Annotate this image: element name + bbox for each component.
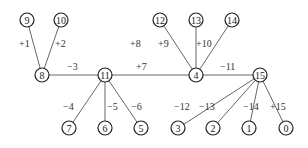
node-label: 14 [227, 15, 237, 26]
node-label: 1 [247, 123, 252, 134]
node-2: 2 [206, 121, 220, 135]
node-12: 12 [153, 13, 167, 27]
edge-label: −14 [243, 101, 259, 112]
node-label: 4 [194, 70, 199, 81]
node-label: 9 [25, 15, 30, 26]
edge-label: +15 [270, 101, 286, 112]
edge-label: +9 [158, 38, 169, 49]
node-label: 2 [211, 123, 216, 134]
node-label: 8 [40, 70, 45, 81]
node-0: 0 [279, 121, 293, 135]
nodes-layer: 9101213148114157653210 [20, 13, 293, 135]
node-label: 10 [56, 15, 66, 26]
node-1: 1 [242, 121, 256, 135]
node-label: 5 [139, 123, 144, 134]
node-11: 11 [98, 68, 112, 82]
node-label: 15 [255, 70, 265, 81]
node-9: 9 [20, 13, 34, 27]
tree-diagram: +1+2−3+7+8+9+10−11−4−5−6−12−13−14+15 910… [0, 0, 308, 148]
node-8: 8 [35, 68, 49, 82]
node-13: 13 [189, 13, 203, 27]
node-6: 6 [98, 121, 112, 135]
node-label: 13 [191, 15, 201, 26]
edge-label: +1 [19, 38, 30, 49]
edge-11-7 [69, 75, 105, 128]
edge-label: +8 [130, 38, 141, 49]
node-label: 6 [103, 123, 108, 134]
edge-label: −11 [220, 61, 235, 72]
node-label: 12 [155, 15, 165, 26]
edge-label: +2 [55, 38, 66, 49]
node-label: 3 [176, 123, 181, 134]
node-label: 0 [284, 123, 289, 134]
edge-label: −6 [131, 101, 142, 112]
node-5: 5 [134, 121, 148, 135]
node-15: 15 [253, 68, 267, 82]
node-3: 3 [171, 121, 185, 135]
node-label: 7 [67, 123, 72, 134]
edge-label: −12 [174, 101, 190, 112]
node-7: 7 [62, 121, 76, 135]
node-label: 11 [100, 70, 110, 81]
edge-label: −5 [107, 101, 118, 112]
edge-label: −3 [67, 61, 78, 72]
node-14: 14 [225, 13, 239, 27]
edge-label: +10 [196, 38, 212, 49]
edge-label: −4 [63, 101, 74, 112]
node-10: 10 [54, 13, 68, 27]
edge-label: +7 [136, 61, 147, 72]
edge-label: −13 [199, 101, 215, 112]
node-4: 4 [189, 68, 203, 82]
